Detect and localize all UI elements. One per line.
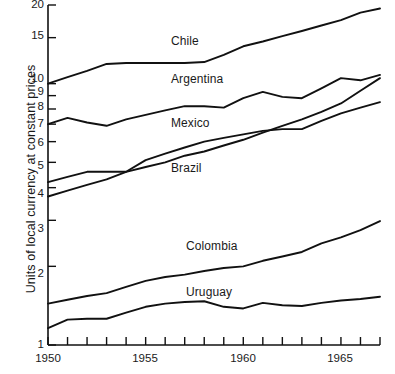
x-tick-marks xyxy=(48,337,380,345)
series-line-brazil xyxy=(48,78,380,196)
series-line-chile xyxy=(48,8,380,83)
series-lines xyxy=(48,8,380,328)
series-line-uruguay xyxy=(48,297,380,328)
chart-figure: Units of local currency at constant pric… xyxy=(0,0,395,374)
y-tick-marks xyxy=(48,5,56,345)
series-line-mexico xyxy=(48,102,380,182)
series-line-colombia xyxy=(48,221,380,304)
chart-plot-area xyxy=(0,0,395,374)
